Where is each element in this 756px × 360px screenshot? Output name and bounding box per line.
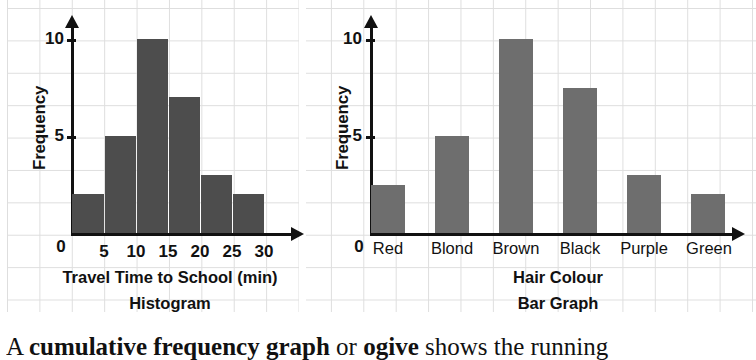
bargraph-bar-blond — [435, 136, 469, 233]
histogram-x-tick-label-20: 20 — [187, 243, 213, 261]
histogram-bar-0-5 — [72, 194, 104, 233]
bargraph-bar-purple — [627, 175, 661, 233]
bargraph-bar-black — [563, 88, 597, 233]
histogram-origin-label: 0 — [50, 238, 72, 256]
histogram-y-tick-10 — [67, 39, 76, 42]
bargraph-category-label-brown: Brown — [483, 239, 549, 258]
histogram-x-tick-label-25: 25 — [219, 243, 245, 261]
histogram-x-axis — [71, 233, 293, 236]
histogram-x-axis-arrow-icon — [291, 227, 304, 241]
bargraph-bar-green — [691, 194, 725, 233]
bargraph-category-label-purple: Purple — [612, 239, 676, 258]
body-text-run: shows the running — [419, 333, 609, 360]
bargraph-category-label-black: Black — [549, 239, 611, 258]
histogram-y-tick-5 — [67, 136, 76, 139]
histogram-bar-15-20 — [169, 97, 200, 233]
bargraph-caption: Bar Graph — [398, 294, 718, 313]
bargraph-category-label-red: Red — [358, 239, 418, 258]
histogram-x-tick-label-15: 15 — [155, 243, 181, 261]
histogram-x-tick-label-10: 10 — [123, 243, 149, 261]
bargraph-category-label-blond: Blond — [420, 239, 484, 258]
bargraph-y-axis-arrow-icon — [364, 15, 378, 28]
body-paragraph: A cumulative frequency graph or ogive sh… — [6, 332, 750, 360]
histogram-bar-25-30 — [233, 194, 264, 233]
bargraph-x-axis-title: Hair Colour — [398, 268, 718, 287]
bargraph-bar-red — [371, 185, 405, 233]
histogram-y-tick-label-10: 10 — [34, 30, 64, 48]
bargraph-y-tick-10 — [366, 39, 375, 42]
histogram-figure: Frequency 10 5 0 5 10 15 20 25 30 Travel… — [0, 0, 378, 312]
body-text-bold-run: ogive — [363, 333, 419, 360]
bargraph-bar-brown — [499, 39, 533, 233]
body-text-run: or — [330, 333, 363, 360]
bargraph-x-axis — [370, 233, 734, 236]
histogram-bar-5-10 — [105, 136, 136, 233]
bargraph-figure: Frequency 10 5 0 Red Blond Brown Black P… — [378, 0, 756, 312]
histogram-x-axis-title: Travel Time to School (min) — [20, 268, 320, 287]
body-text-run: A — [6, 333, 29, 360]
bargraph-y-tick-label-10: 10 — [332, 30, 362, 48]
histogram-caption: Histogram — [20, 294, 320, 313]
figure-page: Frequency 10 5 0 5 10 15 20 25 30 Travel… — [0, 0, 756, 360]
histogram-bar-20-25 — [201, 175, 232, 233]
bargraph-y-tick-5 — [366, 136, 375, 139]
bargraph-y-tick-label-5: 5 — [332, 127, 362, 145]
histogram-x-tick-label-30: 30 — [251, 243, 277, 261]
bargraph-category-label-green: Green — [678, 239, 740, 258]
body-text-bold-run: cumulative frequency graph — [29, 333, 330, 360]
histogram-y-tick-label-5: 5 — [34, 127, 64, 145]
histogram-y-axis-arrow-icon — [65, 15, 79, 28]
histogram-x-tick-label-5: 5 — [93, 243, 115, 261]
histogram-bar-10-15 — [137, 39, 168, 233]
